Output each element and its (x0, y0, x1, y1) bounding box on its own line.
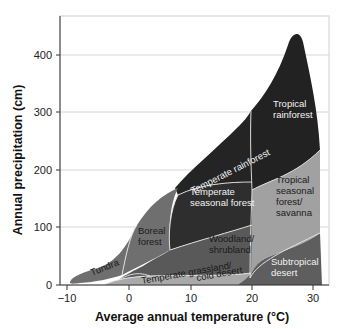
label-tropical-seasonal-4: savanna (276, 207, 313, 218)
label-woodland-1: Woodland/ (209, 233, 255, 244)
svg-text:20: 20 (246, 292, 258, 304)
label-woodland-2: shrubland (209, 244, 251, 255)
label-subtropical-1: Subtropical (271, 256, 319, 267)
label-boreal-2: forest (138, 236, 162, 247)
svg-text:400: 400 (34, 49, 52, 61)
label-tropical-seasonal-3: forest/ (276, 196, 303, 207)
x-tick-labels: −10 0 10 20 30 (58, 292, 319, 304)
biome-chart: 0 100 200 300 400 −10 0 10 20 30 Average… (0, 0, 339, 329)
svg-text:0: 0 (126, 292, 132, 304)
x-axis-title: Average annual temperature (°C) (95, 310, 289, 324)
label-boreal-1: Boreal (138, 225, 165, 236)
svg-text:200: 200 (34, 164, 52, 176)
y-tick-labels: 0 100 200 300 400 (34, 49, 52, 291)
label-tropical-rainforest-2: rainforest (273, 109, 313, 120)
label-tropical-seasonal-1: Tropical (276, 174, 309, 185)
label-temperate-seasonal-1: Temperate (190, 186, 235, 197)
label-tropical-rainforest-1: Tropical (273, 98, 306, 109)
svg-text:30: 30 (307, 292, 319, 304)
svg-text:10: 10 (185, 292, 197, 304)
label-tropical-seasonal-2: seasonal (276, 185, 314, 196)
label-subtropical-2: desert (271, 267, 298, 278)
y-axis-title: Annual precipitation (cm) (11, 85, 25, 236)
svg-text:100: 100 (34, 221, 52, 233)
svg-text:0: 0 (46, 279, 52, 291)
svg-text:−10: −10 (58, 292, 77, 304)
svg-text:300: 300 (34, 106, 52, 118)
label-temperate-seasonal-2: seasonal forest (190, 197, 255, 208)
